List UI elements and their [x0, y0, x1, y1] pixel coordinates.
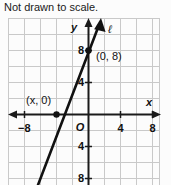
point-y-intercept-label: (0, 8) — [96, 50, 122, 62]
y-tick-label-neg8: 8 — [78, 172, 84, 184]
y-tick-label-4: 4 — [78, 76, 85, 88]
point-x-intercept-label: (x, 0) — [26, 94, 51, 106]
point-x-intercept-marker — [53, 111, 59, 117]
x-tick-label-4: 4 — [117, 122, 124, 134]
coordinate-graph: y x ℓ (0, 8) (x, 0) O −8 4 8 8 4 4 8 — [0, 18, 171, 185]
y-tick-label-neg4: 4 — [78, 140, 85, 152]
page-caption: Not drawn to scale. — [4, 1, 98, 13]
line-l-label: ℓ — [107, 23, 112, 35]
x-tick-label-neg8: −8 — [18, 122, 31, 134]
y-tick-label-8: 8 — [78, 44, 84, 56]
graph-svg: y x ℓ (0, 8) (x, 0) O −8 4 8 8 4 4 8 — [0, 18, 171, 185]
x-axis-label: x — [145, 96, 153, 108]
point-y-intercept-marker — [85, 47, 91, 53]
graph-page: Not drawn to scale. — [0, 0, 171, 185]
origin-label: O — [76, 121, 85, 133]
y-axis-label: y — [70, 21, 78, 33]
x-tick-label-8: 8 — [149, 122, 155, 134]
